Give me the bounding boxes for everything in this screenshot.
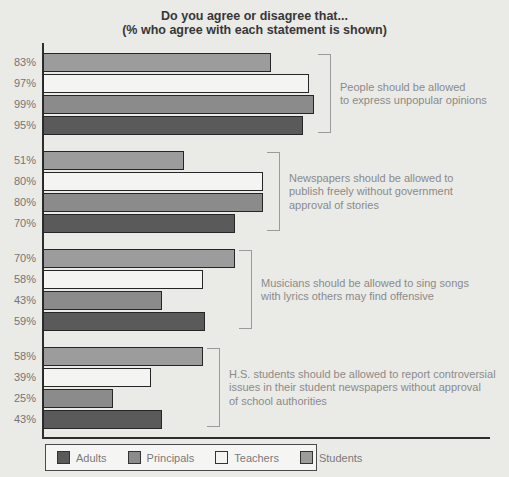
survey-bar-chart: Do you agree or disagree that... (% who … [0, 0, 509, 477]
legend-item-adults: Adults [57, 451, 107, 464]
bar-value-label: 43% [2, 410, 36, 429]
bar-value-label: 83% [2, 53, 36, 72]
bar-students [43, 347, 203, 366]
chart-title-line1: Do you agree or disagree that... [0, 9, 509, 23]
legend-label: Teachers [234, 452, 279, 464]
legend-item-teachers: Teachers [215, 451, 279, 464]
group-annotation-line: with lyrics others may find offensive [261, 290, 469, 304]
legend-swatch-icon [128, 451, 141, 464]
legend-item-principals: Principals [128, 451, 195, 464]
legend-label: Principals [147, 452, 195, 464]
bar-teachers [43, 172, 263, 191]
group-annotation: H.S. students should be allowed to repor… [229, 368, 496, 409]
group-bracket [318, 54, 331, 133]
group-annotation-line: H.S. students should be allowed to repor… [229, 368, 496, 382]
bar-value-label: 58% [2, 270, 36, 289]
legend: AdultsPrincipalsTeachersStudents [45, 444, 317, 471]
group-annotation-line: approval of stories [289, 199, 454, 213]
group-bracket [207, 348, 220, 427]
legend-swatch-icon [57, 451, 70, 464]
group-annotation-line: Newspapers should be allowed to [289, 172, 454, 186]
bar-adults [43, 214, 235, 233]
legend-swatch-icon [215, 451, 228, 464]
bar-value-label: 43% [2, 291, 36, 310]
bar-value-label: 39% [2, 368, 36, 387]
bar-value-label: 97% [2, 74, 36, 93]
group-annotation-line: publish freely without government [289, 185, 454, 199]
legend-item-students: Students [300, 451, 362, 464]
bar-principals [43, 291, 162, 310]
group-annotation-line: Musicians should be allowed to sing song… [261, 277, 469, 291]
bar-adults [43, 312, 205, 331]
legend-swatch-icon [300, 451, 313, 464]
group-annotation-line: to express unpopular opinions [340, 94, 487, 108]
bar-students [43, 53, 271, 72]
bar-value-label: 25% [2, 389, 36, 408]
bar-value-label: 99% [2, 95, 36, 114]
group-annotation-line: of school authorities [229, 395, 496, 409]
group-annotation-line: People should be allowed [340, 81, 487, 95]
legend-label: Adults [76, 452, 107, 464]
bar-value-label: 95% [2, 116, 36, 135]
group-annotation: People should be allowedto express unpop… [340, 81, 487, 108]
bar-value-label: 59% [2, 312, 36, 331]
bar-principals [43, 193, 263, 212]
legend-label: Students [319, 452, 362, 464]
bar-students [43, 151, 184, 170]
bar-students [43, 249, 235, 268]
group-annotation: Musicians should be allowed to sing song… [261, 277, 469, 304]
chart-title: Do you agree or disagree that... (% who … [0, 9, 509, 37]
bar-value-label: 58% [2, 347, 36, 366]
group-bracket [239, 250, 252, 329]
bar-teachers [43, 74, 309, 93]
bar-value-label: 80% [2, 172, 36, 191]
bar-adults [43, 410, 162, 429]
chart-title-line2: (% who agree with each statement is show… [0, 23, 509, 37]
bar-principals [43, 389, 113, 408]
bar-teachers [43, 270, 203, 289]
group-annotation-line: issues in their student newspapers witho… [229, 381, 496, 395]
bar-value-label: 70% [2, 214, 36, 233]
bar-value-label: 70% [2, 249, 36, 268]
bar-value-label: 51% [2, 151, 36, 170]
group-bracket [267, 152, 280, 231]
bar-value-label: 80% [2, 193, 36, 212]
bar-adults [43, 116, 303, 135]
group-annotation: Newspapers should be allowed topublish f… [289, 172, 454, 213]
bar-principals [43, 95, 314, 114]
x-axis-line [42, 437, 490, 439]
bar-teachers [43, 368, 151, 387]
